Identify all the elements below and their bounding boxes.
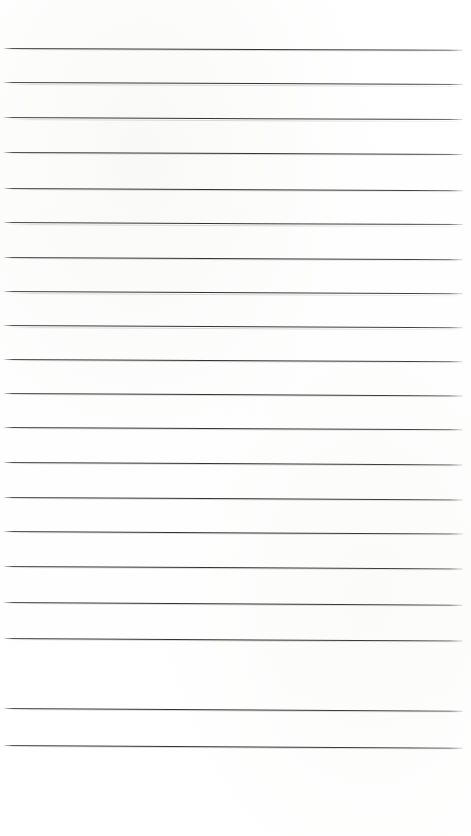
ruled-line-stroke [3,257,463,260]
ruled-lines-container [0,0,471,836]
ruled-line-stroke [3,393,463,397]
ruled-line-bleed [6,360,462,363]
ruled-line [0,291,471,294]
ruled-line [0,392,471,395]
ruled-line-stroke [3,531,463,535]
ruled-line [0,222,471,225]
ruled-line-bleed [6,258,462,261]
ruled-line [0,461,471,464]
ruled-line-bleed [6,428,462,431]
ruled-line [0,256,471,259]
ruled-line-stroke [3,602,463,606]
ruled-line [0,637,471,640]
ruled-line [0,426,471,429]
ruled-line [0,530,471,533]
ruled-line-stroke [3,48,463,51]
ruled-line-bleed [6,224,462,227]
ruled-line [0,358,471,361]
ruled-line-bleed [6,153,462,156]
ruled-line [0,496,471,499]
ruled-line-stroke [3,291,463,294]
ruled-line [0,187,471,190]
ruled-line-stroke [3,82,463,85]
ruled-line-bleed [6,84,462,87]
ruled-line-bleed [6,293,462,296]
ruled-line [0,151,471,154]
ruled-line [0,117,471,120]
ruled-line-bleed [6,119,462,122]
ruled-line-bleed [6,532,462,536]
ruled-line-stroke [3,427,463,431]
ruled-line-bleed [6,49,462,52]
ruled-line-stroke [3,222,463,225]
ruled-line-bleed [6,498,462,501]
ruled-line-bleed [6,603,462,607]
ruled-line-stroke [3,708,463,712]
ruled-line-bleed [6,709,462,713]
ruled-line [0,82,471,85]
ruled-line-stroke [3,117,463,120]
ruled-line-bleed [6,639,462,643]
ruled-line-stroke [3,638,463,642]
ruled-line [0,325,471,328]
ruled-line-stroke [3,566,463,570]
ruled-line-stroke [3,152,463,155]
ruled-line-stroke [3,188,463,191]
lined-paper-page [0,0,471,836]
ruled-line [0,565,471,568]
ruled-line-stroke [3,745,463,749]
ruled-line-bleed [6,327,462,330]
ruled-line-bleed [6,189,462,192]
ruled-line [0,707,471,710]
ruled-line-stroke [3,359,463,362]
ruled-line-stroke [3,497,463,501]
ruled-line [0,47,471,50]
ruled-line-bleed [6,463,462,466]
ruled-line-stroke [3,462,463,466]
ruled-line-stroke [3,325,463,329]
ruled-line-bleed [6,746,462,750]
ruled-line [0,744,471,747]
ruled-line-bleed [6,567,462,570]
ruled-line-bleed [6,394,462,397]
ruled-line [0,601,471,604]
